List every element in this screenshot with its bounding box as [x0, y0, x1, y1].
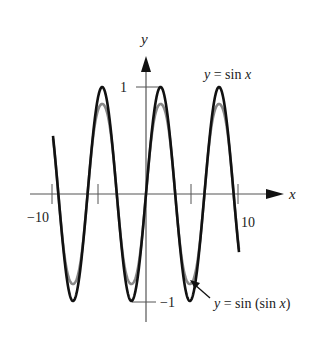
y-axis-arrow-icon: [141, 56, 151, 72]
y-axis-label: y: [139, 31, 148, 47]
tick-label-10: 10: [241, 215, 255, 230]
x-axis-label: x: [288, 186, 296, 202]
chart-canvas: y x −10 10 1 −1 y = sin x y = sin (sin x…: [0, 0, 312, 344]
tick-label-neg1: −1: [160, 295, 175, 310]
legend-sin-sin-x: y = sin (sin x): [212, 296, 291, 312]
x-axis-arrow-icon: [266, 189, 284, 199]
legend-sin-x: y = sin x: [202, 67, 252, 82]
tick-label-1: 1: [120, 80, 127, 95]
tick-label-neg10: −10: [27, 210, 49, 225]
